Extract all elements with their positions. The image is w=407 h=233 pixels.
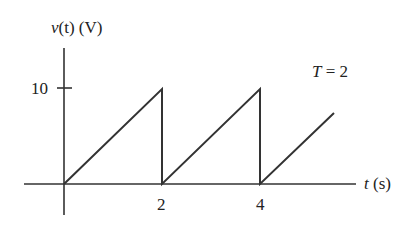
x-tick-label-2: 2 [157,195,166,214]
sawtooth-waveform [64,89,334,184]
y-axis-label: v(t) (V) [51,18,102,37]
chart-canvas: v(t) (V) 10 2 4 t (s) T = 2 [0,0,407,233]
y-tick-label-10: 10 [31,79,48,98]
x-tick-label-4: 4 [256,195,265,214]
sawtooth-chart: v(t) (V) 10 2 4 t (s) T = 2 [0,0,407,233]
period-annotation: T = 2 [312,62,348,81]
x-axis-label: t (s) [364,174,391,193]
